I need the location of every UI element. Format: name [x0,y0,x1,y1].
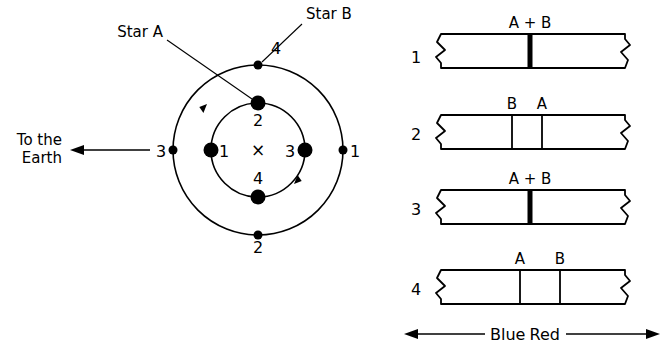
spectrum-panel-2-label-b: B [507,95,517,113]
earth-label-line2: Earth [22,149,62,167]
star-b-leader-line [262,24,302,62]
earth-direction-arrowhead [70,145,84,155]
star-b-position-3-label: 3 [156,142,166,161]
blue-axis-label: Blue [490,325,525,344]
star-b-position-2-label: 2 [253,238,263,257]
spectrum-panel-2-number: 2 [411,125,421,144]
orbit-diagram: × 1 2 3 4 1 2 3 4 Star A Star B To the E… [16,5,360,257]
star-a-position-4-dot [251,190,266,205]
spectrum-panel-2-band [436,115,630,149]
star-b-label: Star B [306,5,352,23]
spectrum-panel-4-band [436,270,630,304]
spectrum-panel-3-band [436,190,630,224]
star-a-position-1-label: 1 [219,142,229,161]
spectra-group: 1 A + B 2 B A 3 A + B 4 A B [404,14,660,344]
spectrum-panel-4-label-b: B [555,250,565,268]
red-arrowhead [646,329,660,339]
spectrum-panel-4-number: 4 [411,280,421,299]
figure-canvas: × 1 2 3 4 1 2 3 4 Star A Star B To the E… [0,0,672,357]
spectrum-panel-4-label-a: A [515,250,526,268]
star-a-position-3-dot [298,143,313,158]
star-a-leader-line [167,40,252,99]
spectrum-panel-1-band [436,34,630,68]
star-a-position-1-dot [204,143,219,158]
blue-arrowhead [404,329,418,339]
spectrum-panel-2-label-a: A [537,95,548,113]
star-a-position-2-dot [251,96,266,111]
star-b-position-1-label: 1 [350,142,360,161]
spectrum-panel-2: 2 B A [411,95,630,149]
figure-root: × 1 2 3 4 1 2 3 4 Star A Star B To the E… [0,0,672,357]
wavelength-axis: Blue Red [404,325,660,344]
star-b-position-1-dot [339,146,348,155]
spectrum-panel-3-line-label: A + B [509,170,552,188]
outer-orbit-direction-arrow [198,102,209,113]
spectrum-panel-1: 1 A + B [411,14,630,68]
center-of-mass-marker: × [251,140,265,160]
spectrum-panel-1-line-label: A + B [509,14,552,32]
star-a-label: Star A [117,23,164,41]
star-b-position-4-dot [254,61,263,70]
star-a-position-2-label: 2 [253,111,263,130]
spectrum-panel-3: 3 A + B [411,170,630,224]
star-a-position-4-label: 4 [253,169,263,188]
spectrum-panel-1-number: 1 [411,48,421,67]
earth-label-line1: To the [16,131,62,149]
spectrum-panel-3-number: 3 [411,200,421,219]
red-axis-label: Red [530,325,560,344]
spectrum-panel-4: 4 A B [411,250,630,304]
star-b-position-3-dot [169,146,178,155]
star-a-position-3-label: 3 [285,142,295,161]
